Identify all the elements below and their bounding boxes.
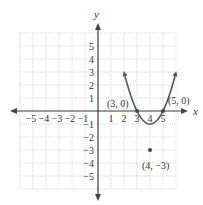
parabola-graph: x y −5−4−3−2−112345 54321−1−2−3−4−5 (3, … (0, 0, 203, 205)
x-tick-label: −2 (65, 113, 76, 124)
x-tick-label: −3 (52, 113, 63, 124)
x-tick-label: −4 (39, 113, 50, 124)
y-axis-label: y (93, 8, 99, 20)
point-label-5-0: (5, 0) (168, 95, 190, 107)
y-axis-down-arrow-icon (95, 194, 101, 201)
y-tick-label: 5 (89, 41, 94, 52)
y-tick-label: −3 (83, 145, 94, 156)
y-axis (95, 23, 101, 201)
y-tick-label: 4 (89, 54, 94, 65)
y-tick-label: −5 (83, 171, 94, 182)
x-tick-label: 1 (109, 113, 114, 124)
x-axis-label: x (192, 105, 198, 117)
point-5-0 (161, 109, 165, 113)
point-label-3-0: (3, 0) (107, 98, 129, 110)
y-tick-label: 1 (89, 93, 94, 104)
vertex-label: (4, −3) (142, 160, 169, 172)
point-3-0 (135, 109, 139, 113)
vertex-point (148, 148, 152, 152)
x-axis-right-arrow-icon (181, 108, 188, 114)
y-tick-label: −1 (83, 119, 94, 130)
x-axis-left-arrow-icon (10, 108, 17, 114)
y-tick-label: 2 (89, 80, 94, 91)
x-tick-label: −5 (26, 113, 37, 124)
y-tick-label: −2 (83, 132, 94, 143)
y-tick-label: −4 (83, 158, 94, 169)
y-axis-up-arrow-icon (95, 23, 101, 30)
x-tick-label: 4 (148, 113, 153, 124)
x-tick-label: 2 (122, 113, 127, 124)
y-tick-label: 3 (89, 67, 94, 78)
